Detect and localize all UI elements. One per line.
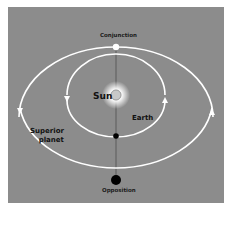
earth-label: Earth: [132, 114, 153, 122]
superior-planet-label-line1: Superior: [30, 127, 64, 136]
arrow-up-icon: [209, 109, 215, 115]
arrow-up-icon: [162, 97, 168, 103]
planet-opposition-icon: [111, 175, 121, 185]
opposition-label: Opposition: [102, 187, 136, 193]
planet-conjunction-icon: [113, 44, 119, 50]
superior-planet-label: Superior planet: [30, 127, 64, 145]
arrow-down-icon: [64, 96, 70, 102]
arrow-down-icon: [17, 108, 23, 114]
superior-planet-label-line2: planet: [30, 136, 64, 145]
sun-icon: [111, 90, 121, 100]
conjunction-label: Conjunction: [100, 32, 137, 38]
sun-label: Sun: [93, 91, 112, 101]
earth-icon: [113, 133, 119, 139]
